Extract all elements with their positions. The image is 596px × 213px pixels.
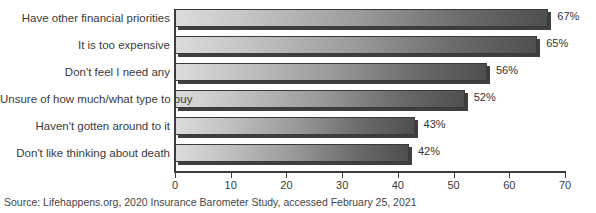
- source-note: Source: Lifehappens.org, 2020 Insurance …: [4, 196, 416, 208]
- tick-label: 40: [392, 179, 404, 191]
- bar: [175, 144, 409, 162]
- bar-shadow: [178, 27, 551, 30]
- x-axis-line: [174, 171, 566, 173]
- bar-value-label: 65%: [546, 37, 568, 49]
- bar-value-label: 43%: [424, 118, 446, 130]
- bar-value-label: 42%: [418, 145, 440, 157]
- tick-mark: [398, 173, 399, 178]
- category-label: Haven't gotten around to it: [0, 120, 176, 132]
- bar-shadow: [178, 54, 540, 57]
- bar-row: 56%: [175, 63, 491, 84]
- category-label: Don't feel I need any: [0, 66, 176, 78]
- category-label: Have other financial priorities: [0, 12, 176, 24]
- bar-value-label: 56%: [496, 64, 518, 76]
- tick-label: 70: [559, 179, 571, 191]
- tick-label: 30: [336, 179, 348, 191]
- bar-shadow-right: [548, 12, 551, 30]
- category-label: Unsure of how much/what type to buy: [0, 93, 176, 105]
- bar-shadow: [178, 135, 418, 138]
- tick-mark: [342, 173, 343, 178]
- bar-shadow-right: [465, 93, 468, 111]
- bar-shadow-right: [487, 66, 490, 84]
- gridline: [565, 9, 566, 171]
- category-label: Don't like thinking about death: [0, 147, 176, 159]
- tick-mark: [286, 173, 287, 178]
- bar-row: 67%: [175, 9, 552, 30]
- tick-mark: [175, 173, 176, 178]
- bar-row: 65%: [175, 36, 541, 57]
- bar-row: 52%: [175, 90, 469, 111]
- bar: [175, 9, 548, 27]
- category-label: It is too expensive: [0, 39, 176, 51]
- bar: [175, 36, 537, 54]
- bar: [175, 117, 415, 135]
- bar-shadow: [178, 81, 490, 84]
- bar-shadow-right: [537, 39, 540, 57]
- bar: [175, 90, 465, 108]
- tick-mark: [454, 173, 455, 178]
- bar-chart: 67%65%56%52%43%42% Have other financial …: [0, 0, 596, 213]
- gridline: [509, 9, 510, 171]
- tick-label: 60: [503, 179, 515, 191]
- tick-label: 20: [280, 179, 292, 191]
- plot-area: 67%65%56%52%43%42%: [175, 9, 565, 171]
- bar-row: 42%: [175, 144, 413, 165]
- tick-mark: [231, 173, 232, 178]
- bar-row: 43%: [175, 117, 419, 138]
- bar-shadow-right: [415, 120, 418, 138]
- tick-mark: [565, 173, 566, 178]
- bar-shadow: [178, 162, 412, 165]
- bar-shadow: [178, 108, 468, 111]
- bar-value-label: 52%: [474, 91, 496, 103]
- tick-mark: [509, 173, 510, 178]
- tick-label: 0: [172, 179, 178, 191]
- bar: [175, 63, 487, 81]
- tick-label: 50: [447, 179, 459, 191]
- bar-shadow-right: [409, 147, 412, 165]
- bar-value-label: 67%: [557, 10, 579, 22]
- tick-label: 10: [225, 179, 237, 191]
